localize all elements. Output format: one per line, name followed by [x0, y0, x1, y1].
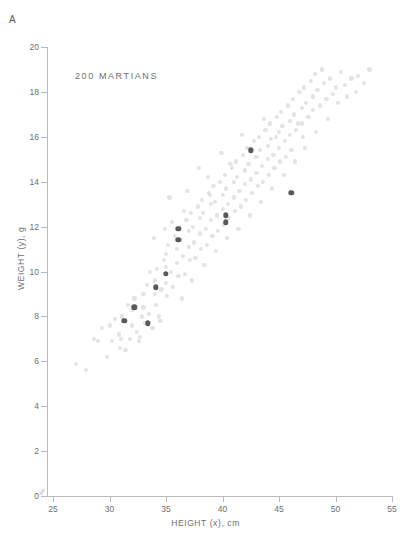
- data-point: [279, 110, 283, 114]
- data-point: [255, 184, 259, 188]
- y-tick-label: 4: [34, 401, 39, 411]
- data-point: [215, 213, 219, 217]
- data-point: [164, 265, 168, 269]
- data-point: [203, 227, 207, 231]
- data-point: [289, 148, 293, 152]
- data-point: [232, 195, 236, 199]
- data-point: [219, 150, 223, 154]
- data-point: [196, 204, 200, 208]
- data-point: [250, 191, 254, 195]
- data-point: [294, 128, 298, 132]
- data-point: [74, 361, 78, 365]
- data-point: [283, 139, 287, 143]
- data-point: [244, 198, 248, 202]
- data-point: [293, 159, 297, 163]
- data-point: [184, 218, 188, 222]
- data-point-highlighted: [176, 226, 181, 231]
- y-tick-mark: [41, 47, 47, 48]
- data-point: [198, 216, 202, 220]
- x-tick-mark: [223, 496, 224, 502]
- x-tick-label: 55: [387, 504, 396, 514]
- data-point: [118, 346, 122, 350]
- data-point: [302, 85, 306, 89]
- data-point: [275, 115, 279, 119]
- y-tick-label: 12: [30, 222, 39, 232]
- data-point: [140, 314, 144, 318]
- data-point: [171, 285, 175, 289]
- x-axis-line: [47, 496, 393, 497]
- data-point-highlighted: [132, 305, 137, 310]
- data-point: [175, 260, 179, 264]
- data-point: [191, 225, 195, 229]
- data-point: [148, 269, 152, 273]
- x-tick-mark: [53, 496, 54, 502]
- data-point: [270, 186, 274, 190]
- x-tick-label: 40: [218, 504, 227, 514]
- y-tick-label: 16: [30, 132, 39, 142]
- data-point: [297, 90, 301, 94]
- data-point: [267, 173, 271, 177]
- data-point: [262, 117, 266, 121]
- data-point: [185, 189, 189, 193]
- data-point: [268, 121, 272, 125]
- data-point: [277, 130, 281, 134]
- y-tick-mark: [41, 496, 47, 497]
- data-point: [254, 171, 258, 175]
- data-point: [311, 108, 315, 112]
- data-point: [183, 272, 187, 276]
- data-point: [216, 229, 220, 233]
- data-point: [96, 339, 100, 343]
- data-point: [234, 159, 238, 163]
- y-tick-mark: [41, 182, 47, 183]
- data-point: [165, 294, 169, 298]
- data-point: [181, 254, 185, 258]
- data-point: [331, 92, 335, 96]
- x-tick-mark: [392, 496, 393, 502]
- y-tick-mark: [41, 316, 47, 317]
- data-point: [189, 211, 193, 215]
- y-tick-label: 14: [30, 177, 39, 187]
- data-point: [318, 103, 322, 107]
- y-tick-label: 2: [34, 446, 39, 456]
- data-point-highlighted: [121, 318, 126, 323]
- data-point: [320, 67, 324, 71]
- data-point: [311, 94, 315, 98]
- data-point: [349, 76, 353, 80]
- data-point: [249, 177, 253, 181]
- data-point: [367, 67, 371, 71]
- data-point: [277, 146, 281, 150]
- data-point: [125, 303, 129, 307]
- data-point: [211, 184, 215, 188]
- data-point: [176, 274, 180, 278]
- y-axis-line: [47, 47, 48, 497]
- y-tick-label: 6: [34, 356, 39, 366]
- data-point: [263, 128, 267, 132]
- data-point: [128, 337, 132, 341]
- data-point: [257, 135, 261, 139]
- data-point: [261, 180, 265, 184]
- y-tick-mark: [41, 451, 47, 452]
- data-point: [232, 180, 236, 184]
- data-point: [333, 85, 337, 89]
- data-point: [167, 195, 171, 199]
- data-point: [135, 330, 139, 334]
- data-point: [210, 233, 214, 237]
- data-point: [224, 186, 228, 190]
- data-point-highlighted: [163, 271, 168, 276]
- data-point: [288, 119, 292, 123]
- data-point: [229, 166, 233, 170]
- data-point: [218, 180, 222, 184]
- data-point: [180, 296, 184, 300]
- data-point: [110, 339, 114, 343]
- x-tick-label: 35: [161, 504, 170, 514]
- data-point: [237, 189, 241, 193]
- data-point: [163, 227, 167, 231]
- data-point: [105, 355, 109, 359]
- data-point: [304, 101, 308, 105]
- data-point: [314, 130, 318, 134]
- scatter-plot-figure: A 200 MARTIANS 0246810121416182025303540…: [0, 0, 411, 536]
- y-tick-mark: [41, 406, 47, 407]
- data-point: [258, 148, 262, 152]
- y-tick-label: 20: [30, 42, 39, 52]
- data-point: [162, 258, 166, 262]
